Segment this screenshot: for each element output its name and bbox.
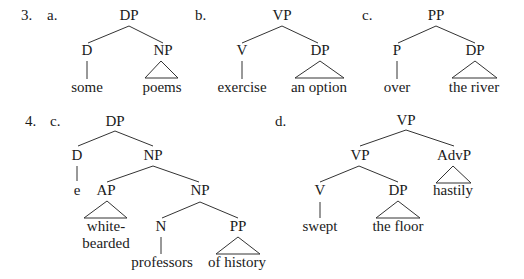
tree-3a: a. DP D NP some poems [47,7,182,95]
branch-line [282,26,318,43]
sub-example-label: c. [50,113,60,129]
branch-line [88,26,129,43]
example-number: 3. [21,7,32,23]
terminal: some [71,79,103,95]
branch-line [107,166,153,182]
node-root: DP [105,113,124,129]
node: AdvP [437,147,471,163]
triangle-branch [84,201,127,218]
node: D [72,147,83,163]
terminal: e [74,182,81,198]
branch-line [162,202,200,218]
branch-line [320,166,359,182]
example-3: 3. a. DP D NP some poems b. VP V DP exer… [21,7,499,95]
node-root: DP [119,7,138,23]
terminal: white- [87,218,125,234]
tree-3c: c. PP P DP over the river [362,7,499,95]
node: V [315,182,326,198]
branch-line [360,130,406,146]
sub-example-label: a. [47,7,57,23]
branch-line [398,26,436,43]
terminal: professors [131,254,193,270]
triangle-branch [376,201,420,218]
branch-line [78,131,115,146]
terminal: the river [449,79,499,95]
branch-line [153,166,199,182]
branch-line [436,26,475,43]
node: DP [465,42,484,58]
branch-line [242,26,282,43]
tree-4d: d. VP VP AdvP hastily V DP swept the flo… [275,112,473,234]
sub-example-label: c. [362,7,372,23]
triangle-branch [216,237,260,254]
sub-example-label: b. [195,7,206,23]
terminal: of history [208,254,266,270]
node: AP [96,182,115,198]
branch-line [406,130,454,146]
branch-line [129,26,163,43]
terminal: poems [142,79,181,95]
node-root: VP [272,7,291,23]
branch-line [115,131,153,146]
sub-example-label: d. [275,113,286,129]
example-4: 4. c. DP D NP e AP NP white- bearded N P… [25,112,473,270]
terminal: swept [303,218,339,234]
terminal: over [384,79,411,95]
node: NP [153,42,172,58]
node: NP [190,182,209,198]
syntax-tree-diagram: 3. a. DP D NP some poems b. VP V DP exer… [0,0,524,279]
example-number: 4. [25,113,36,129]
terminal: hastily [433,182,473,198]
node: VP [350,147,369,163]
triangle-branch [145,61,178,78]
node: P [393,42,401,58]
triangle-branch [452,61,497,78]
node-root: PP [428,7,445,23]
branch-line [359,166,398,182]
triangle-branch [295,61,344,78]
terminal: the floor [372,218,423,234]
branch-line [200,202,238,218]
node: NP [143,147,162,163]
node: V [237,42,248,58]
node: PP [230,218,247,234]
node: N [156,218,167,234]
node: DP [310,42,329,58]
node: D [82,42,93,58]
node: DP [388,182,407,198]
tree-3b: b. VP V DP exercise an option [195,7,348,95]
triangle-branch [436,166,471,183]
terminal: an option [291,79,348,95]
terminal: bearded [82,235,130,251]
node-root: VP [396,112,415,128]
terminal: exercise [217,79,266,95]
tree-4c: c. DP D NP e AP NP white- bearded N PP p… [50,113,266,270]
